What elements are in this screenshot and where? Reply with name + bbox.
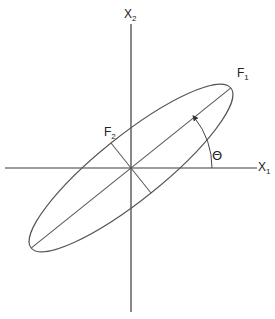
ellipse-rotation-diagram: [0, 0, 275, 319]
x1-axis-label: X1: [258, 161, 270, 176]
x2-label-sub: 2: [132, 14, 136, 23]
x2-axis-label: X2: [124, 8, 136, 23]
x1-label-base: X: [258, 160, 266, 174]
angle-theta-label: Θ: [212, 149, 222, 162]
f1-label-sub: 1: [244, 73, 248, 82]
f1-axis-label: F1: [237, 67, 249, 82]
x1-label-sub: 1: [266, 167, 270, 176]
f2-axis-label: F2: [104, 126, 116, 141]
angle-arc-arrow: [194, 117, 212, 168]
x2-label-base: X: [124, 7, 132, 21]
f2-label-sub: 2: [111, 132, 115, 141]
